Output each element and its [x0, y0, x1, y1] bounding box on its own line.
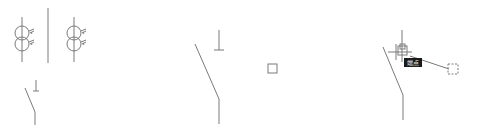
snap-tooltip: 端点	[404, 58, 422, 67]
transformer-icon-1	[15, 17, 34, 62]
transformer-icon-2	[67, 17, 86, 62]
grip-square-icon[interactable]	[268, 64, 277, 73]
disconnector-switch-icon-middle	[195, 30, 224, 124]
dashed-grip-square-icon[interactable]	[448, 64, 458, 74]
disconnector-switch-icon-right	[383, 47, 403, 120]
disconnector-switch-icon-small	[25, 80, 39, 125]
